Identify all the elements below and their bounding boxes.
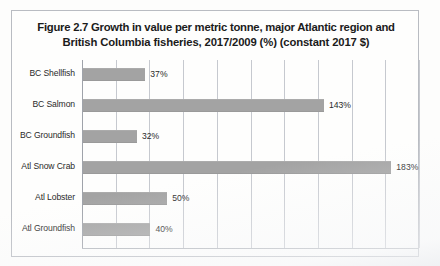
bar — [83, 130, 137, 143]
chart-row: BC Groundfish32% — [11, 122, 419, 153]
bar-value-label: 40% — [155, 224, 172, 235]
bar-value-label: 143% — [329, 100, 351, 111]
figure-title-line-2: British Columbia fisheries, 2017/2009 (%… — [24, 35, 408, 50]
bar-value-label: 50% — [172, 193, 189, 204]
bar — [83, 99, 324, 112]
bar — [83, 68, 145, 81]
bar — [83, 161, 391, 174]
page-canvas: Figure 2.7 Growth in value per metric to… — [0, 0, 440, 266]
gridline-200 — [419, 60, 420, 248]
chart-axis-baseline — [82, 248, 419, 249]
category-label: BC Groundfish — [11, 130, 75, 141]
figure-title-line-1: Figure 2.7 Growth in value per metric to… — [24, 20, 408, 35]
bar-chart-plot-area: BC Shellfish37%BC Salmon143%BC Groundfis… — [11, 58, 419, 253]
bar — [83, 192, 167, 205]
chart-row: BC Salmon143% — [11, 91, 419, 122]
bar-value-label: 37% — [150, 69, 167, 80]
category-label: BC Salmon — [11, 99, 75, 110]
category-label: Atl Groundfish — [11, 223, 75, 234]
bar — [83, 223, 150, 236]
bar-value-label: 183% — [396, 162, 418, 173]
bar-value-label: 32% — [142, 131, 159, 142]
chart-row: BC Shellfish37% — [11, 60, 419, 91]
chart-row: Atl Snow Crab183% — [11, 153, 419, 184]
category-label: BC Shellfish — [11, 68, 75, 79]
chart-row: Atl Lobster50% — [11, 184, 419, 215]
category-label: Atl Snow Crab — [11, 161, 75, 172]
category-label: Atl Lobster — [11, 192, 75, 203]
chart-row: Atl Groundfish40% — [11, 215, 419, 246]
figure-title: Figure 2.7 Growth in value per metric to… — [24, 20, 408, 49]
